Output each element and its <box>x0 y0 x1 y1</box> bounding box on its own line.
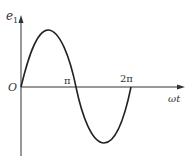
y-axis-arrow-icon <box>19 15 24 23</box>
x-axis-arrow-icon <box>177 85 185 90</box>
y-axis-label: e1 <box>6 10 18 25</box>
x-axis-label: ωt <box>168 94 180 104</box>
x-tick-2pi: 2π <box>120 74 133 84</box>
sine-wave-chart <box>0 0 193 160</box>
origin-label: O <box>8 82 17 93</box>
x-tick-pi: π <box>64 76 71 86</box>
